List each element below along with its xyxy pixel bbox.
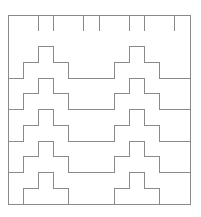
stair-line (8, 141, 190, 173)
tessellation-pattern (0, 0, 201, 217)
stair-line (8, 110, 190, 142)
stair-bands (8, 15, 190, 204)
stair-line (8, 173, 190, 205)
stair-line (8, 47, 190, 79)
stair-line (8, 78, 190, 110)
